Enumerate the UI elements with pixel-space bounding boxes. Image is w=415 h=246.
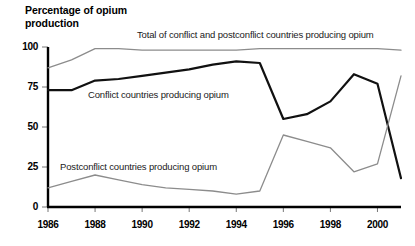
series-line-0	[48, 49, 401, 68]
y-tick-label: 100	[8, 41, 38, 52]
series-annotation-1: Conflict countries producing opium	[88, 89, 229, 100]
x-tick-label: 1994	[214, 219, 258, 230]
y-tick-label: 25	[8, 161, 38, 172]
series-annotation-0: Total of conflict and postconflict count…	[137, 29, 374, 40]
y-tick-label: 75	[8, 81, 38, 92]
x-tick-label: 1992	[167, 219, 211, 230]
x-tick-label: 1990	[120, 219, 164, 230]
x-tick-label: 2000	[355, 219, 399, 230]
y-tick-label: 50	[8, 121, 38, 132]
x-tick-label: 1988	[73, 219, 117, 230]
series-annotation-2: Postconflict countries producing opium	[60, 161, 217, 172]
y-tick-label: 0	[8, 201, 38, 212]
chart-container: Percentage of opium production 025507510…	[0, 0, 415, 246]
x-tick-label: 1996	[261, 219, 305, 230]
x-tick-label: 1986	[26, 219, 70, 230]
x-tick-label: 1998	[308, 219, 352, 230]
